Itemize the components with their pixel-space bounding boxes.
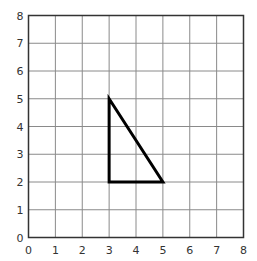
y-tick-label: 6 [17,65,24,78]
x-tick-label: 4 [133,244,140,257]
x-axis-tick-labels: 012345678 [25,244,247,257]
x-tick-label: 2 [79,244,86,257]
y-tick-label: 5 [17,93,24,106]
x-tick-label: 6 [186,244,193,257]
x-tick-label: 8 [240,244,247,257]
coordinate-grid: 012345678 012345678 [0,0,257,261]
x-tick-label: 5 [159,244,166,257]
y-axis-tick-labels: 012345678 [17,10,24,245]
grid-lines [29,16,244,238]
y-tick-label: 8 [17,10,24,23]
y-tick-label: 4 [17,121,24,134]
x-tick-label: 3 [106,244,113,257]
x-tick-label: 1 [52,244,59,257]
y-tick-label: 7 [17,37,24,50]
y-tick-label: 2 [17,176,24,189]
y-tick-label: 3 [17,148,24,161]
y-tick-label: 1 [17,204,24,217]
y-tick-label: 0 [17,232,24,245]
x-tick-label: 7 [213,244,220,257]
x-tick-label: 0 [25,244,32,257]
